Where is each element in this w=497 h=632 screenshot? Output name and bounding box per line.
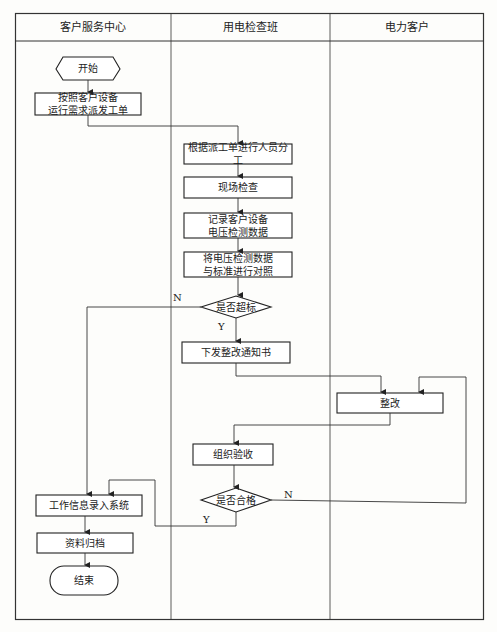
node-start[interactable]: 开始	[56, 57, 120, 80]
node-record[interactable]: 记录客户设备 电压检测数据	[184, 213, 292, 238]
node-entry[interactable]: 工作信息录入系统	[36, 495, 142, 516]
node-accept[interactable]: 组织验收	[193, 444, 273, 465]
node-inspect[interactable]: 现场检查	[184, 177, 292, 198]
edge-label-exceed-yes: Y	[218, 321, 225, 332]
node-qualified-decision[interactable]: 是否合格	[201, 488, 271, 512]
node-assign[interactable]: 根据派工单进行人员分工	[184, 144, 292, 164]
node-end[interactable]: 结束	[50, 566, 118, 595]
edge-label-qualified-no: N	[284, 489, 293, 500]
lane-header-customer-service: 客户服务中心	[15, 13, 171, 41]
lane-header-inspection-team: 用电检查班	[171, 13, 330, 41]
edge-label-qualified-yes: Y	[203, 514, 210, 525]
node-rectify[interactable]: 整改	[337, 393, 443, 413]
node-archive[interactable]: 资料归档	[37, 533, 133, 553]
lane-header-power-customer: 电力客户	[330, 13, 483, 41]
node-notice[interactable]: 下发整改通知书	[182, 342, 290, 363]
node-dispatch[interactable]: 按照客户设备 运行需求派发工单	[35, 93, 141, 115]
node-exceed-decision[interactable]: 是否超标	[201, 296, 271, 318]
node-compare[interactable]: 将电压检测数据 与标准进行对照	[184, 252, 292, 277]
edge-label-exceed-no: N	[173, 292, 182, 303]
